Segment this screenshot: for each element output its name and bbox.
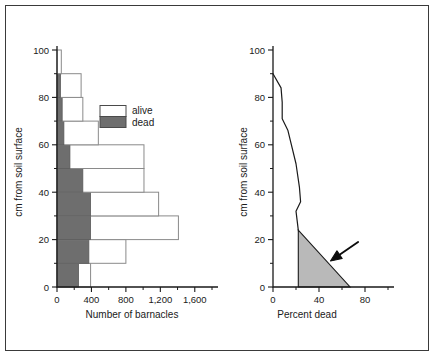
- bar-dead-segment: [57, 97, 62, 121]
- bar-dead-segment: [57, 169, 83, 193]
- x-tick-label-left: 0: [54, 294, 59, 305]
- x-tick-label-right: 40: [314, 294, 325, 305]
- arrow-head: [331, 251, 343, 261]
- y-tick-label-right: 100: [249, 45, 265, 56]
- bar-dead-segment: [57, 121, 64, 145]
- y-axis-title-right: cm from soil surface: [238, 127, 249, 217]
- legend-label-alive: alive: [132, 105, 153, 116]
- y-tick-label-left: 0: [44, 282, 49, 293]
- y-tick-label-left: 40: [38, 187, 49, 198]
- x-tick-label-left: 400: [84, 294, 100, 305]
- legend-swatch-dead: [100, 117, 126, 128]
- y-tick-label-left: 100: [33, 45, 49, 56]
- curve-polyline: [273, 74, 301, 230]
- legend-swatch-alive: [100, 106, 126, 117]
- percent-dead-svg: 02040608010004080 Percent dead cm from s…: [225, 0, 436, 358]
- y-tick-label-left: 80: [38, 92, 49, 103]
- barnacle-count-svg: 02040608010004008001,2001,600 Number of …: [0, 0, 225, 358]
- axis-group: [268, 46, 394, 292]
- percent-dead-curve: [273, 74, 301, 230]
- x-tick-label-right: 0: [270, 294, 275, 305]
- bar-group: [57, 50, 178, 287]
- bar-dead-segment: [57, 263, 79, 287]
- x-tick-label-left: 1,200: [148, 294, 172, 305]
- bar-dead-segment: [57, 240, 89, 264]
- y-tick-label-left: 60: [38, 139, 49, 150]
- legend-label-dead: dead: [132, 117, 154, 128]
- x-tick-label-left: 800: [118, 294, 134, 305]
- bar-dead-segment: [57, 216, 91, 240]
- y-tick-label-left: 20: [38, 234, 49, 245]
- y-tick-label-right: 60: [254, 139, 265, 150]
- barnacle-count-chart: 02040608010004008001,2001,600 Number of …: [0, 0, 225, 358]
- y-tick-label-right: 80: [254, 92, 265, 103]
- x-axis-title-left: Number of barnacles: [86, 309, 179, 320]
- y-tick-label-right: 0: [260, 282, 265, 293]
- x-tick-label-left: 1,600: [183, 294, 207, 305]
- legend: alive dead: [100, 105, 154, 128]
- y-tick-label-right: 40: [254, 187, 265, 198]
- percent-dead-chart: 02040608010004080 Percent dead cm from s…: [225, 0, 436, 358]
- x-tick-label-right: 80: [360, 294, 371, 305]
- y-tick-label-right: 20: [254, 234, 265, 245]
- axis-lines-right: [273, 46, 394, 287]
- arrow-shaft: [340, 242, 359, 255]
- x-axis-title-right: Percent dead: [277, 309, 337, 320]
- figure-container: 02040608010004008001,2001,600 Number of …: [0, 0, 436, 358]
- bar-dead-segment: [57, 145, 70, 169]
- pointer-arrow-icon: [331, 242, 359, 261]
- bar-dead-segment: [57, 192, 91, 216]
- y-axis-title-left: cm from soil surface: [13, 127, 24, 217]
